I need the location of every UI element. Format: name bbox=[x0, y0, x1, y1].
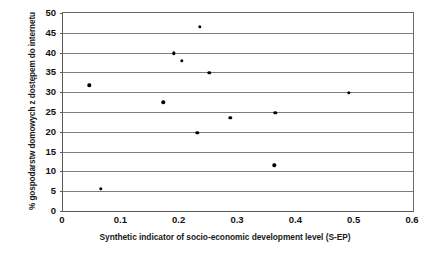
y-tick-mark-35 bbox=[60, 72, 64, 73]
x-tick-label-0.2: 0.2 bbox=[159, 214, 199, 225]
x-tick-label-0.1: 0.1 bbox=[100, 214, 140, 225]
gridline-y-10 bbox=[63, 171, 413, 172]
y-tick-label-50: 50 bbox=[30, 8, 56, 17]
data-point bbox=[272, 164, 275, 167]
data-point bbox=[347, 91, 350, 94]
scatter-chart: % gospodarstw domowych z dostępem do int… bbox=[0, 0, 429, 258]
data-point bbox=[99, 187, 102, 190]
data-point bbox=[229, 116, 232, 119]
y-tick-label-20: 20 bbox=[30, 126, 56, 135]
data-point bbox=[208, 71, 211, 74]
data-point bbox=[172, 52, 175, 55]
y-tick-label-40: 40 bbox=[30, 47, 56, 56]
gridline-y-15 bbox=[63, 152, 413, 153]
y-tick-mark-0 bbox=[60, 211, 64, 212]
y-tick-label-30: 30 bbox=[30, 87, 56, 96]
data-point bbox=[88, 84, 91, 87]
y-tick-mark-25 bbox=[60, 112, 64, 113]
x-tick-label-0.6: 0.6 bbox=[392, 214, 429, 225]
gridline-y-35 bbox=[63, 72, 413, 73]
gridline-y-45 bbox=[63, 33, 413, 34]
y-tick-mark-10 bbox=[60, 171, 64, 172]
y-axis-tick-labels: 05101520253035404550 bbox=[30, 12, 56, 210]
gridline-y-20 bbox=[63, 132, 413, 133]
x-tick-label-0.4: 0.4 bbox=[275, 214, 315, 225]
x-tick-label-0.3: 0.3 bbox=[217, 214, 257, 225]
y-tick-mark-40 bbox=[60, 53, 64, 54]
x-tick-label-0: 0 bbox=[42, 214, 82, 225]
y-tick-mark-50 bbox=[60, 13, 64, 14]
y-tick-label-15: 15 bbox=[30, 146, 56, 155]
y-tick-mark-5 bbox=[60, 191, 64, 192]
x-axis-tick-labels: 00.10.20.30.40.50.6 bbox=[62, 214, 412, 228]
y-tick-mark-45 bbox=[60, 33, 64, 34]
y-tick-label-35: 35 bbox=[30, 67, 56, 76]
gridline-y-30 bbox=[63, 92, 413, 93]
y-tick-mark-20 bbox=[60, 132, 64, 133]
y-tick-label-5: 5 bbox=[30, 186, 56, 195]
plot-area bbox=[62, 12, 414, 212]
gridline-y-5 bbox=[63, 191, 413, 192]
y-tick-mark-30 bbox=[60, 92, 64, 93]
x-tick-label-0.5: 0.5 bbox=[334, 214, 374, 225]
data-point bbox=[198, 25, 201, 28]
gridline-y-25 bbox=[63, 112, 413, 113]
y-tick-mark-15 bbox=[60, 152, 64, 153]
y-tick-label-10: 10 bbox=[30, 166, 56, 175]
data-point bbox=[274, 111, 277, 114]
cropped-caption-remnant bbox=[0, 0, 429, 6]
data-point bbox=[180, 59, 183, 62]
data-point bbox=[162, 101, 165, 104]
y-tick-label-25: 25 bbox=[30, 107, 56, 116]
y-tick-label-45: 45 bbox=[30, 27, 56, 36]
data-point bbox=[195, 131, 198, 134]
gridline-y-40 bbox=[63, 53, 413, 54]
x-axis-title: Synthetic indicator of socio-economic de… bbox=[30, 232, 420, 242]
